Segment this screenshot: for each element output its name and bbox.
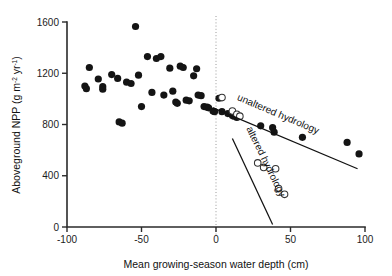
- x-tick-label: -100: [57, 234, 77, 245]
- data-point: [190, 72, 197, 79]
- data-point: [193, 65, 200, 72]
- y-axis-title-prefix: Aboveground NPP (g m: [10, 83, 22, 194]
- data-point: [299, 134, 306, 141]
- x-axis-tick-labels: -100-50050100: [57, 234, 374, 245]
- data-point: [114, 75, 121, 82]
- data-point: [83, 85, 90, 92]
- axis-frame: [67, 22, 365, 227]
- y-axis-title-suffix: ): [10, 56, 22, 60]
- data-point: [169, 88, 176, 95]
- svg-text:Aboveground NPP (g m-2 yr-1): Aboveground NPP (g m-2 yr-1): [10, 56, 22, 193]
- data-point: [344, 139, 351, 146]
- data-point: [135, 72, 142, 79]
- data-point: [119, 120, 126, 127]
- data-series-unaltered-hydrology: [81, 23, 362, 158]
- data-point: [166, 65, 173, 72]
- y-tick-label: 400: [42, 170, 59, 181]
- data-point: [144, 53, 151, 60]
- y-axis-title-mid: yr: [10, 65, 22, 77]
- y-tick-label: 1200: [37, 68, 60, 79]
- x-tick-label: -50: [134, 234, 149, 245]
- data-point: [157, 53, 164, 60]
- data-point: [180, 64, 187, 71]
- data-point: [127, 80, 134, 87]
- series-annotations: unaltered hydrologyaltered hydrology: [236, 92, 321, 199]
- data-point: [174, 100, 181, 107]
- x-tick-label: 50: [285, 234, 297, 245]
- x-tick-label: 0: [213, 234, 219, 245]
- data-point: [355, 150, 362, 157]
- y-tick-label: 0: [53, 222, 59, 233]
- data-point: [160, 91, 167, 98]
- data-point: [186, 97, 193, 104]
- data-point: [138, 103, 145, 110]
- x-tick-label: 100: [357, 234, 374, 245]
- data-point: [95, 75, 102, 82]
- x-axis-title: Mean growing-season water depth (cm): [123, 258, 308, 270]
- data-point: [86, 64, 93, 71]
- data-point: [198, 92, 205, 99]
- y-axis-title: Aboveground NPP (g m-2 yr-1): [10, 56, 22, 193]
- y-axis-tick-labels: 040080012001600: [37, 17, 60, 233]
- regression-lines-group: [213, 108, 358, 225]
- y-tick-label: 800: [42, 119, 59, 130]
- data-point: [148, 89, 155, 96]
- data-point: [99, 86, 106, 93]
- scatter-plot-figure: -100-50050100 040080012001600 unaltered …: [0, 0, 392, 276]
- annotation-altered: altered hydrology: [244, 125, 288, 199]
- data-point: [108, 71, 115, 78]
- data-point: [219, 94, 226, 101]
- chart-canvas: -100-50050100 040080012001600 unaltered …: [0, 0, 392, 276]
- y-tick-label: 1600: [37, 17, 60, 28]
- data-point: [132, 23, 139, 30]
